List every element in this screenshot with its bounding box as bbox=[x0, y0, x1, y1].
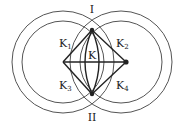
label-i: I bbox=[90, 3, 94, 16]
label-k: K bbox=[88, 49, 97, 62]
label-k3: K3 bbox=[59, 79, 72, 93]
diagram-canvas: I II K K1 K2 K3 K4 bbox=[0, 0, 183, 124]
right-vertex-dot bbox=[123, 59, 128, 64]
label-k2: K2 bbox=[116, 37, 129, 51]
label-k4: K4 bbox=[116, 79, 129, 93]
bottom-vertex-dot bbox=[90, 92, 94, 96]
label-k1: K1 bbox=[59, 37, 72, 51]
label-ii: II bbox=[88, 111, 97, 124]
top-vertex-dot bbox=[90, 28, 94, 32]
